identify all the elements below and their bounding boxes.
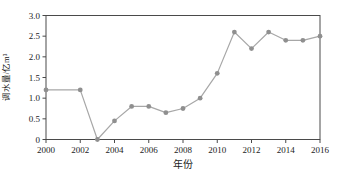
data-point-marker — [163, 110, 168, 115]
y-axis-title: 调水量/亿m³ — [1, 53, 11, 101]
data-point-marker — [283, 38, 288, 43]
series-line — [46, 32, 320, 139]
data-point-marker — [95, 137, 100, 142]
plot-border — [46, 16, 320, 140]
data-point-marker — [181, 106, 186, 111]
data-point-marker — [232, 30, 237, 35]
x-axis-tick-label: 2016 — [311, 145, 330, 155]
data-point-marker — [249, 46, 254, 51]
data-point-marker — [112, 119, 117, 124]
data-point-marker — [78, 88, 83, 93]
x-axis-tick-label: 2008 — [174, 145, 193, 155]
data-point-marker — [146, 104, 151, 109]
data-point-marker — [215, 71, 220, 76]
y-axis-tick-label: 2.5 — [29, 31, 41, 41]
data-point-marker — [266, 30, 271, 35]
x-axis-tick-label: 2000 — [37, 145, 56, 155]
data-point-marker — [198, 96, 203, 101]
y-axis-tick-label: 1.5 — [29, 73, 41, 83]
y-axis-tick-label: 0 — [36, 135, 41, 145]
x-axis-tick-label: 2004 — [106, 145, 125, 155]
x-axis-tick-label: 2006 — [140, 145, 159, 155]
x-axis-title: 年份 — [173, 158, 193, 170]
data-point-marker — [129, 104, 134, 109]
water-transfer-line-chart: 00.51.01.52.02.53.0200020022004200620082… — [0, 0, 341, 182]
line-chart-figure: 00.51.01.52.02.53.0200020022004200620082… — [0, 0, 341, 182]
y-axis-tick-label: 3.0 — [29, 11, 41, 21]
y-axis-tick-label: 1.0 — [29, 93, 41, 103]
x-axis-tick-label: 2012 — [243, 145, 261, 155]
x-axis-tick-label: 2014 — [277, 145, 296, 155]
x-axis-tick-label: 2010 — [208, 145, 227, 155]
y-axis-tick-label: 0.5 — [29, 114, 41, 124]
y-axis-tick-label: 2.0 — [29, 52, 41, 62]
data-point-marker — [300, 38, 305, 43]
x-axis-tick-label: 2002 — [71, 145, 89, 155]
data-point-marker — [44, 88, 49, 93]
data-point-marker — [318, 34, 323, 39]
